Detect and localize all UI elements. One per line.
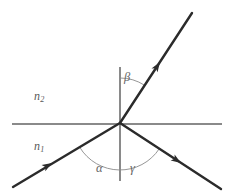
medium-lower-label: n1 xyxy=(34,140,44,154)
medium-lower-subscript: 1 xyxy=(40,145,44,154)
angle-gamma-label: γ xyxy=(130,162,135,175)
medium-upper-subscript: 2 xyxy=(40,95,44,104)
refraction-diagram: n2 n1 β α γ xyxy=(0,0,234,196)
reflected-ray xyxy=(120,123,221,189)
angle-alpha-label: α xyxy=(96,162,103,175)
angle-beta-label: β xyxy=(124,71,130,84)
medium-upper-label: n2 xyxy=(34,90,44,104)
incident-ray xyxy=(13,123,120,187)
